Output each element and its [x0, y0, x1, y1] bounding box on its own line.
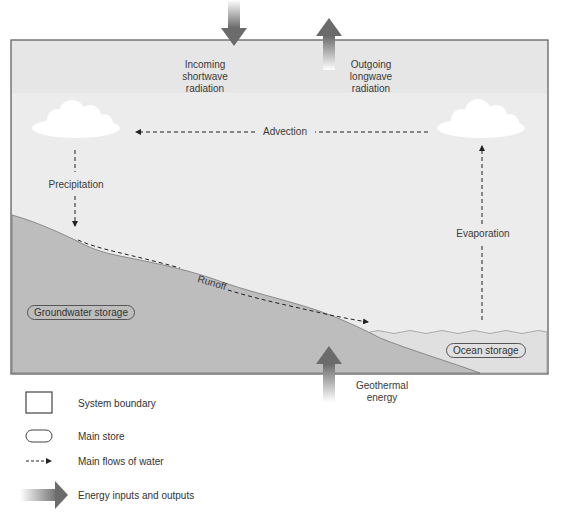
legend-store-icon [26, 430, 52, 442]
evaporation-label: Evaporation [452, 228, 514, 240]
legend-energy-arrow-icon [20, 481, 68, 509]
precipitation-label: Precipitation [44, 179, 108, 191]
diagram-canvas [0, 0, 568, 524]
legend-main-store: Main store [78, 431, 125, 442]
legend-system-boundary: System boundary [78, 398, 156, 409]
geothermal-energy-label: Geothermal energy [350, 380, 414, 404]
incoming-radiation-label: Incoming shortwave radiation [170, 59, 240, 95]
incoming-radiation-arrow [221, 0, 247, 46]
advection-label: Advection [256, 126, 314, 138]
legend-energy: Energy inputs and outputs [78, 490, 194, 501]
ocean-storage: Ocean storage [446, 343, 526, 358]
outgoing-radiation-label: Outgoing longwave radiation [340, 59, 402, 95]
groundwater-storage: Groundwater storage [27, 305, 135, 320]
legend-main-flows: Main flows of water [78, 456, 164, 467]
legend-rectangle-icon [26, 392, 52, 413]
